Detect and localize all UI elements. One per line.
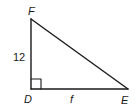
vertex-label-d: D <box>24 93 32 105</box>
hypotenuse-fe <box>31 19 128 89</box>
side-label-de: f <box>70 93 74 105</box>
vertex-label-f: F <box>28 5 36 17</box>
vertex-label-e: E <box>121 94 129 106</box>
side-label-fd: 12 <box>13 51 25 63</box>
triangle-diagram: F 12 D f E <box>0 0 138 107</box>
right-angle-marker <box>31 79 41 89</box>
triangle-def <box>31 19 128 89</box>
